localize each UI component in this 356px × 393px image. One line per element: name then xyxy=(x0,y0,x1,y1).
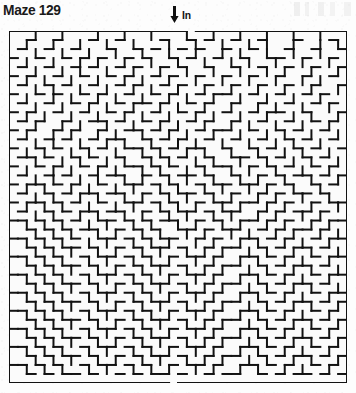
maze-svg xyxy=(9,31,347,383)
maze-grid xyxy=(9,31,347,383)
page-title: Maze 129 xyxy=(3,1,61,18)
scan-smudge-artifact xyxy=(294,2,354,16)
arrow-down-icon xyxy=(170,6,179,23)
entrance-label: In xyxy=(182,9,191,21)
entrance-marker: In xyxy=(170,6,191,23)
maze-page: Maze 129 In xyxy=(0,0,356,393)
